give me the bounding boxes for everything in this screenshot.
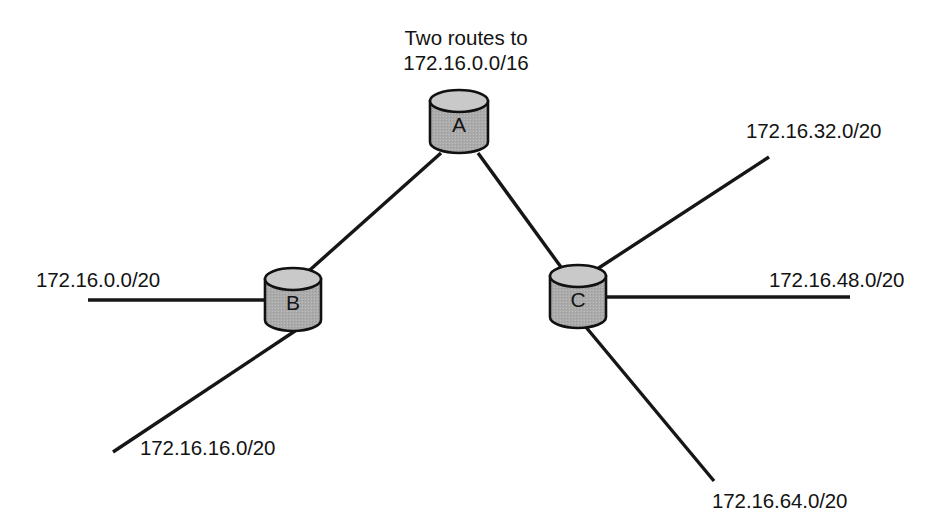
node-c-label: C — [570, 288, 585, 311]
node-c[interactable]: C — [550, 265, 606, 328]
node-b-label: B — [286, 291, 300, 314]
edge-a-to-b — [302, 153, 441, 277]
network-label-172-16-0-0-20: 172.16.0.0/20 — [36, 268, 160, 292]
node-a-top — [430, 90, 488, 112]
node-b-top — [265, 268, 321, 290]
link-b-down-left — [113, 327, 301, 452]
aggregate-route-title: Two routes to 172.16.0.0/16 — [386, 25, 546, 75]
network-label-172-16-64-0-20: 172.16.64.0/20 — [712, 489, 847, 513]
link-c-up-right — [591, 157, 769, 273]
node-b[interactable]: B — [265, 268, 321, 331]
network-diagram: A B C Two routes to 172.16.0.0/16 172.16… — [0, 0, 939, 531]
node-a-label: A — [452, 113, 466, 136]
network-label-172-16-48-0-20: 172.16.48.0/20 — [769, 268, 904, 292]
node-c-top — [550, 265, 606, 287]
edge-a-to-c — [478, 153, 566, 274]
link-c-down-right — [585, 326, 714, 481]
network-label-172-16-32-0-20: 172.16.32.0/20 — [746, 119, 881, 143]
node-a[interactable]: A — [430, 90, 488, 153]
aggregate-route-title-line1: Two routes to — [386, 25, 546, 50]
network-label-172-16-16-0-20: 172.16.16.0/20 — [140, 436, 275, 460]
edges-group — [88, 153, 850, 481]
aggregate-route-title-line2: 172.16.0.0/16 — [386, 50, 546, 75]
